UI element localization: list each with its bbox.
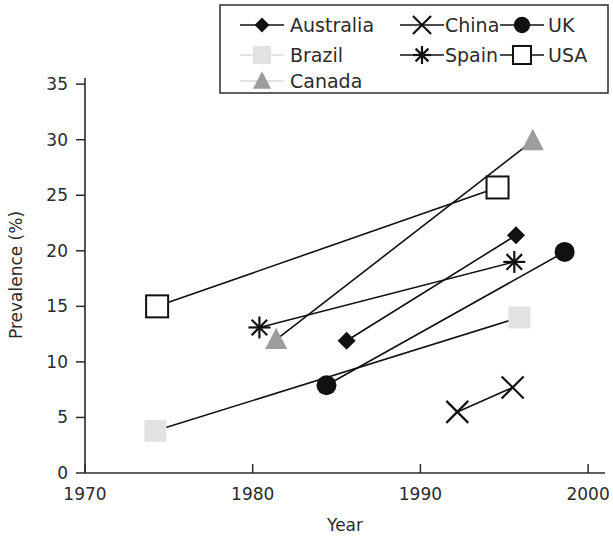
legend-label: China: [445, 14, 499, 36]
series-line-australia: [347, 235, 516, 341]
x-axis-title: Year: [326, 515, 363, 535]
axes-group: 05101520253035 1970198019902000: [46, 74, 609, 504]
chart-figure: 05101520253035 1970198019902000 Year Pre…: [0, 0, 613, 538]
data-point-spain: [503, 251, 525, 273]
y-tick-label: 30: [46, 130, 68, 150]
y-tick-label: 20: [46, 241, 68, 261]
series-line-china: [457, 387, 512, 411]
x-tick-label: 1990: [399, 484, 442, 504]
data-point-usa: [146, 295, 168, 317]
series-line-canada: [276, 141, 533, 340]
legend-marker-open-square: [513, 46, 531, 64]
legend-entry-brazil[interactable]: Brazil: [240, 44, 343, 66]
legend-label: Australia: [290, 14, 374, 36]
series-line-brazil: [155, 317, 519, 430]
data-point-australia: [507, 226, 525, 244]
x-tick-label: 1970: [63, 484, 106, 504]
y-tick-label: 15: [46, 296, 68, 316]
y-axis-ticks: 05101520253035: [46, 74, 85, 483]
data-point-brazil: [144, 420, 166, 442]
series-markers-group: [144, 129, 574, 442]
legend-marker-filled-circle: [514, 17, 530, 33]
legend-marker-asterisk: [413, 46, 431, 64]
y-tick-label: 5: [57, 407, 68, 427]
data-point-canada: [522, 129, 544, 150]
y-tick-label: 35: [46, 74, 68, 94]
legend-marker-light-square: [253, 46, 271, 64]
series-line-usa: [157, 187, 497, 306]
data-point-canada: [265, 328, 287, 349]
legend-label: Brazil: [290, 44, 343, 66]
y-tick-label: 10: [46, 352, 68, 372]
x-tick-label: 2000: [566, 484, 609, 504]
x-axis-ticks: 1970198019902000: [63, 464, 609, 504]
data-point-china: [502, 376, 524, 398]
data-point-uk: [555, 242, 575, 262]
data-point-usa: [487, 176, 509, 198]
data-point-australia: [338, 332, 356, 350]
legend-entry-china[interactable]: China: [400, 14, 499, 36]
prevalence-by-year-scatter-plot: 05101520253035 1970198019902000 Year Pre…: [0, 0, 613, 538]
series-line-spain: [259, 262, 514, 328]
legend-label: UK: [548, 14, 575, 36]
data-point-brazil: [508, 306, 530, 328]
legend-label: Canada: [290, 70, 362, 92]
y-tick-label: 25: [46, 185, 68, 205]
data-point-spain: [248, 316, 270, 338]
x-tick-label: 1980: [231, 484, 274, 504]
y-tick-label: 0: [57, 463, 68, 483]
y-axis-title: Prevalence (%): [6, 211, 26, 339]
data-point-china: [446, 401, 468, 423]
legend-label: Spain: [445, 44, 498, 66]
data-point-uk: [316, 375, 336, 395]
chart-legend: AustraliaChinaUKBrazilSpainUSACanada: [220, 5, 608, 93]
legend-label: USA: [548, 44, 587, 66]
